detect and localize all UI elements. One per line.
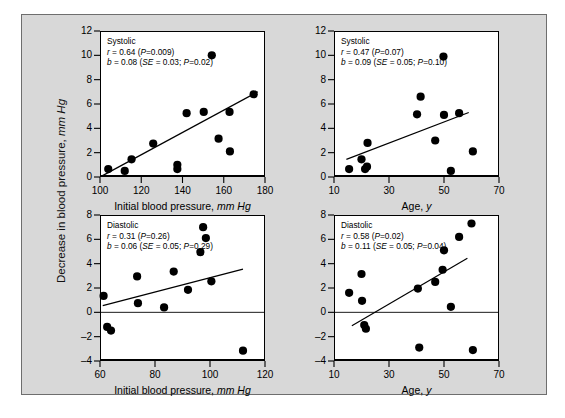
- data-point: [363, 139, 371, 147]
- data-point: [200, 108, 208, 116]
- data-point: [363, 163, 371, 171]
- x-axis-title-units: y: [426, 200, 431, 212]
- x-tick-label: 10: [314, 369, 354, 380]
- figure-y-axis-title: Decrease in blood pressure, mm Hg: [55, 76, 67, 306]
- data-point: [415, 344, 423, 352]
- y-tick-label: 4: [288, 258, 326, 269]
- x-axis-title-units: mm Hg: [217, 384, 251, 396]
- data-point: [414, 285, 422, 293]
- y-tick-label: 10: [288, 49, 326, 60]
- data-point: [439, 52, 447, 60]
- x-tick-label: 180: [245, 185, 285, 196]
- x-tick-label: 70: [479, 185, 519, 196]
- x-axis-title-units: y: [426, 384, 431, 396]
- data-point: [455, 109, 463, 117]
- y-tick-label: 4: [54, 122, 92, 133]
- data-point: [173, 165, 181, 173]
- data-point: [121, 167, 129, 175]
- data-point: [133, 272, 141, 280]
- regression-line: [346, 113, 468, 160]
- data-point: [447, 303, 455, 311]
- data-point: [226, 147, 234, 155]
- y-tick-label: 2: [54, 147, 92, 158]
- x-axis-title-plain: Initial blood pressure,: [114, 384, 217, 396]
- data-point: [440, 111, 448, 119]
- data-point: [207, 277, 215, 285]
- x-axis-title-plain: Age,: [402, 200, 427, 212]
- data-point: [447, 167, 455, 175]
- x-tick-label: 100: [80, 185, 120, 196]
- y-tick-label: –2: [288, 331, 326, 342]
- data-point: [417, 93, 425, 101]
- data-point: [199, 223, 207, 231]
- data-point: [160, 303, 168, 311]
- data-point: [149, 139, 157, 147]
- data-point: [127, 155, 135, 163]
- x-tick-label: 140: [163, 185, 203, 196]
- data-point: [225, 108, 233, 116]
- data-point: [214, 135, 222, 143]
- data-point: [170, 267, 178, 275]
- data-point: [413, 110, 421, 118]
- figure-panel: Decrease in blood pressure, mm Hg Systol…: [21, 14, 547, 395]
- data-point: [250, 90, 258, 98]
- y-tick-label: –4: [288, 355, 326, 366]
- data-point: [362, 325, 370, 333]
- x-tick-label: 50: [424, 185, 464, 196]
- y-tick-label: 8: [54, 209, 92, 220]
- x-tick-label: 30: [369, 369, 409, 380]
- x-tick-label: 30: [369, 185, 409, 196]
- x-tick-label: 70: [479, 369, 519, 380]
- data-point: [431, 278, 439, 286]
- scatter-canvas: [334, 215, 499, 361]
- y-tick-label: 0: [288, 306, 326, 317]
- data-point: [357, 155, 365, 163]
- y-tick-label: 6: [54, 233, 92, 244]
- data-point: [104, 165, 112, 173]
- y-tick-label: 8: [288, 74, 326, 85]
- data-point: [431, 136, 439, 144]
- y-tick-label: 0: [54, 306, 92, 317]
- x-axis-title-plain: Initial blood pressure,: [114, 200, 217, 212]
- y-tick-label: 0: [54, 171, 92, 182]
- y-tick-label: 4: [54, 258, 92, 269]
- x-tick-label: 50: [424, 369, 464, 380]
- data-point: [99, 292, 107, 300]
- data-point: [202, 234, 210, 242]
- data-point: [208, 51, 216, 59]
- data-point: [134, 299, 142, 307]
- x-tick-label: 120: [245, 369, 285, 380]
- figure-root: Decrease in blood pressure, mm Hg Systol…: [0, 0, 565, 418]
- y-tick-label: 12: [288, 25, 326, 36]
- y-tick-label: 2: [288, 282, 326, 293]
- y-tick-label: 6: [288, 98, 326, 109]
- x-tick-label: 160: [204, 185, 244, 196]
- data-point: [469, 147, 477, 155]
- data-point: [467, 219, 475, 227]
- x-tick-label: 10: [314, 185, 354, 196]
- y-tick-label: 2: [288, 147, 326, 158]
- y-tick-label: 8: [54, 74, 92, 85]
- data-point: [196, 248, 204, 256]
- scatter-canvas: [100, 215, 265, 361]
- y-tick-label: –2: [54, 331, 92, 342]
- y-tick-label: 0: [288, 171, 326, 182]
- x-tick-label: 120: [121, 185, 161, 196]
- data-point: [345, 165, 353, 173]
- y-tick-label: 12: [54, 25, 92, 36]
- regression-line: [352, 258, 468, 326]
- x-tick-label: 80: [135, 369, 175, 380]
- x-tick-label: 60: [80, 369, 120, 380]
- data-point: [358, 297, 366, 305]
- x-axis-title: Initial blood pressure, mm Hg: [100, 200, 265, 212]
- y-tick-label: 6: [54, 98, 92, 109]
- x-axis-title: Age, y: [334, 384, 499, 396]
- data-point: [440, 246, 448, 254]
- y-tick-label: 2: [54, 282, 92, 293]
- data-point: [455, 233, 463, 241]
- x-tick-label: 100: [190, 369, 230, 380]
- x-axis-title-plain: Age,: [402, 384, 427, 396]
- data-point: [239, 347, 247, 355]
- y-tick-label: –4: [54, 355, 92, 366]
- data-point: [469, 346, 477, 354]
